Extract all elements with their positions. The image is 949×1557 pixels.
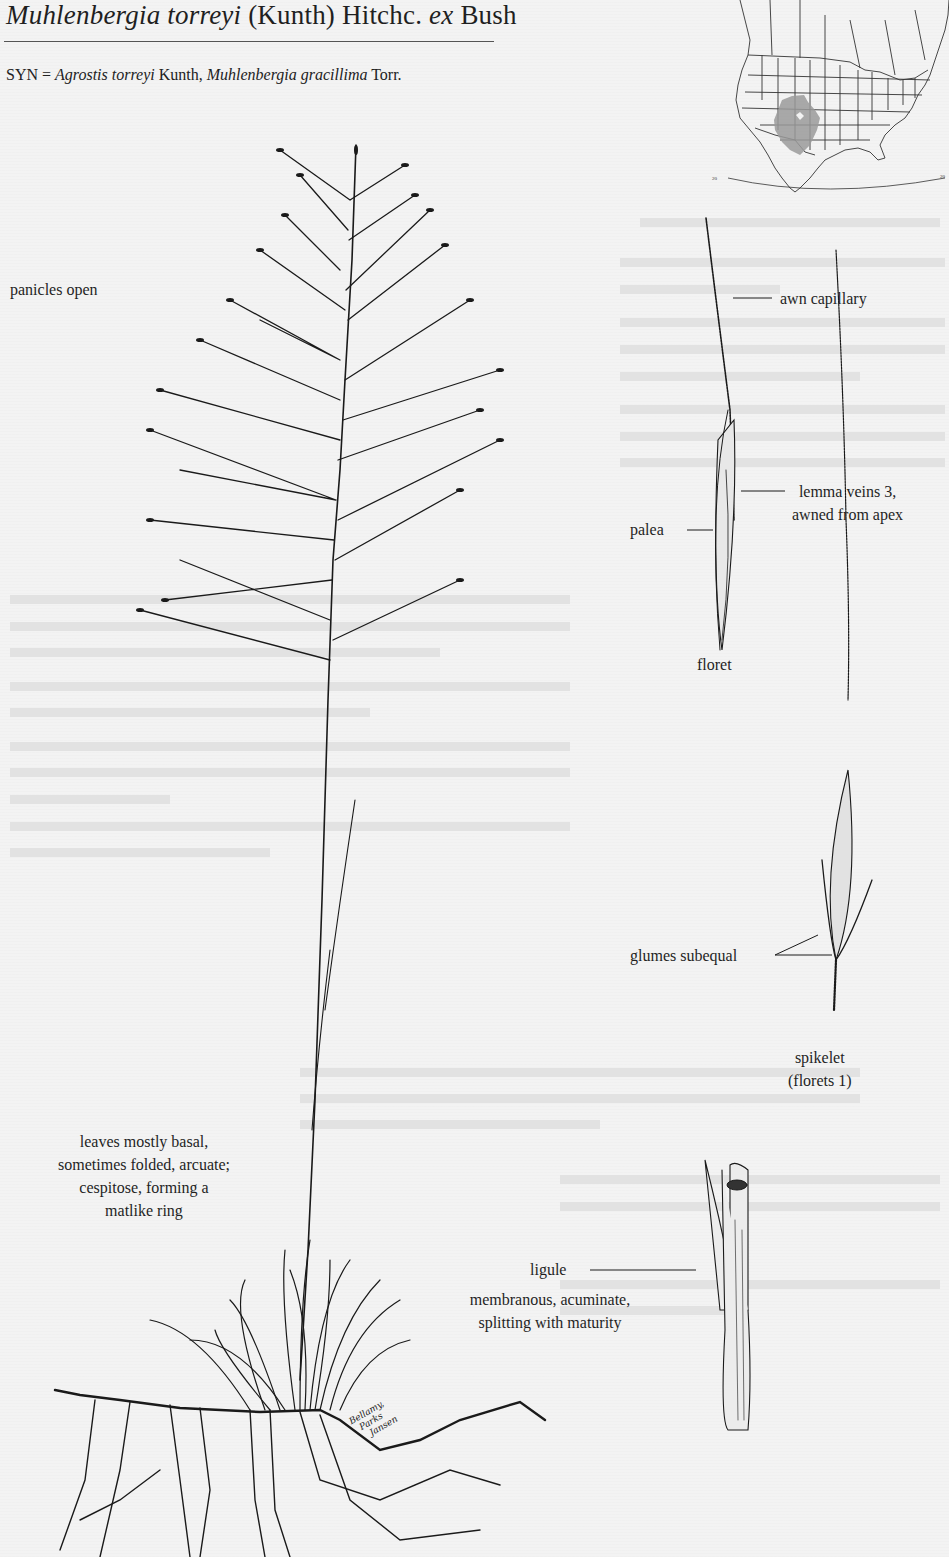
label-lemma-line2: awned from apex [792,503,903,526]
label-ligule-description: membranous, acuminate, splitting with ma… [445,1288,655,1334]
label-ligule-desc-line2: splitting with maturity [445,1311,655,1334]
label-lemma-line1: lemma veins 3, [792,480,903,503]
label-spikelet-line1: spikelet [788,1046,852,1069]
label-panicles: panicles open [10,278,98,301]
label-leaves-line4: matlike ring [30,1199,258,1222]
botanical-plate: Muhlenbergia torreyi (Kunth) Hitchc. ex … [0,0,949,1557]
label-ligule: ligule [530,1258,566,1281]
label-glumes: glumes subequal [630,944,737,967]
label-floret: floret [697,653,732,676]
label-lemma: lemma veins 3, awned from apex [792,480,903,526]
label-leaves: leaves mostly basal, sometimes folded, a… [30,1130,258,1222]
label-palea: palea [630,518,664,541]
label-ligule-desc-line1: membranous, acuminate, [445,1288,655,1311]
label-leaves-line3: cespitose, forming a [30,1176,258,1199]
label-leaves-line1: leaves mostly basal, [30,1130,258,1153]
label-awn: awn capillary [780,287,867,310]
label-spikelet-line2: (florets 1) [788,1069,852,1092]
label-spikelet: spikelet (florets 1) [788,1046,852,1092]
label-leaves-line2: sometimes folded, arcuate; [30,1153,258,1176]
